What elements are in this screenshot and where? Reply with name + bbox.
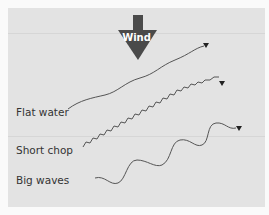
label-flat-water: Flat water	[16, 106, 69, 118]
wind-label: Wind	[118, 32, 155, 43]
label-short-chop: Short chop	[16, 144, 73, 156]
big-waves-line	[95, 123, 242, 184]
arrowhead-icon	[203, 43, 209, 48]
short-chop-line	[83, 77, 225, 147]
label-big-waves: Big waves	[16, 174, 69, 186]
arrowhead-icon	[219, 81, 225, 86]
arrowhead-icon	[236, 126, 242, 131]
